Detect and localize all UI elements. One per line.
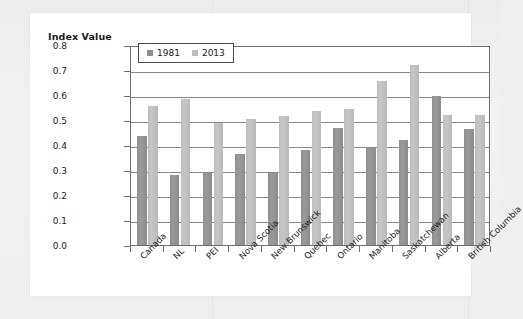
x-axis-tick-mark bbox=[392, 246, 393, 252]
bar bbox=[377, 81, 387, 245]
bar bbox=[246, 119, 256, 245]
x-axis-tick-mark bbox=[163, 246, 164, 252]
bar bbox=[410, 65, 420, 245]
bar bbox=[399, 140, 409, 245]
legend-swatch-icon bbox=[192, 50, 198, 56]
bar bbox=[464, 129, 474, 245]
bar bbox=[214, 123, 224, 246]
bar bbox=[312, 111, 322, 245]
bar bbox=[279, 116, 289, 245]
bar bbox=[366, 148, 376, 246]
y-axis-tick-label: 0.5 bbox=[27, 117, 67, 126]
bar bbox=[475, 115, 485, 245]
x-axis-category-label: NL bbox=[171, 246, 186, 261]
x-axis-tick-mark bbox=[425, 246, 426, 252]
y-axis-tick-label: 0.4 bbox=[27, 142, 67, 151]
x-axis-tick-mark bbox=[359, 246, 360, 252]
bar bbox=[344, 109, 354, 245]
bar bbox=[170, 175, 180, 245]
x-axis-tick-mark bbox=[228, 246, 229, 252]
x-axis-tick-mark bbox=[326, 246, 327, 252]
x-axis-tick-mark bbox=[130, 246, 131, 252]
bar bbox=[137, 136, 147, 245]
x-axis-tick-mark bbox=[294, 246, 295, 252]
legend-entry: 2013 bbox=[192, 49, 225, 58]
bar bbox=[333, 128, 343, 246]
x-axis-tick-mark bbox=[457, 246, 458, 252]
x-axis-tick-mark bbox=[490, 246, 491, 252]
x-axis-tick-mark bbox=[195, 246, 196, 252]
gridline bbox=[131, 72, 489, 73]
legend-label: 1981 bbox=[157, 49, 180, 58]
y-axis-tick-label: 0.2 bbox=[27, 192, 67, 201]
legend-swatch-icon bbox=[147, 50, 153, 56]
y-axis-tick-label: 0.6 bbox=[27, 92, 67, 101]
chart-legend[interactable]: 1981 2013 bbox=[138, 43, 234, 63]
y-axis-tick-label: 0.7 bbox=[27, 67, 67, 76]
bar bbox=[443, 115, 453, 245]
x-axis-tick-mark bbox=[261, 246, 262, 252]
legend-label: 2013 bbox=[202, 49, 225, 58]
chart-card: Index Value 0.00.10.20.30.40.50.60.70.8 … bbox=[30, 13, 471, 296]
bar bbox=[181, 99, 191, 245]
y-axis-tick-label: 0.0 bbox=[27, 242, 67, 251]
y-axis-tick-label: 0.8 bbox=[27, 42, 67, 51]
y-axis-tick-label: 0.3 bbox=[27, 167, 67, 176]
legend-entry: 1981 bbox=[147, 49, 180, 58]
bar bbox=[235, 154, 245, 245]
y-axis-tick-label: 0.1 bbox=[27, 217, 67, 226]
x-axis-category-label: PEI bbox=[204, 245, 220, 261]
bar bbox=[148, 106, 158, 245]
bar bbox=[203, 173, 213, 246]
